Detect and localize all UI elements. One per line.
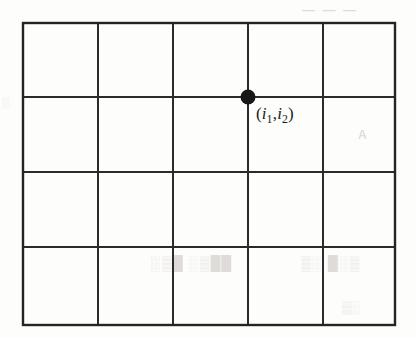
- lattice-grid: [0, 0, 416, 338]
- grid-horizontal-lines: [23, 97, 395, 247]
- label-close-paren: ): [288, 104, 294, 123]
- node-coordinate-label: (i1,i2): [256, 105, 294, 126]
- grid-outer-border: [23, 23, 395, 325]
- lattice-node-dot: [241, 90, 256, 105]
- label-subscript-1: 1: [266, 112, 272, 126]
- lattice-figure: ░ — — — A ██▒░ █▒░ ▒░█ ░▒ ░▒ (i1,i2): [0, 0, 416, 338]
- grid-vertical-lines: [98, 23, 323, 325]
